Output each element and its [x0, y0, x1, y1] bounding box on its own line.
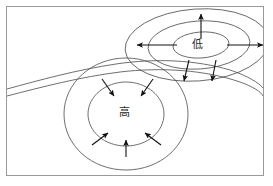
high-pressure-label: 高	[119, 107, 130, 118]
arrow-high-in-topleft	[102, 79, 114, 96]
arrow-high-in-bottomright	[145, 133, 161, 145]
isobar-sweeping-lines	[7, 61, 263, 96]
arrow-high-in-topright	[141, 79, 153, 96]
contour-canvas	[0, 0, 273, 186]
low-pressure-label: 低	[192, 39, 203, 50]
arrow-low-down-right	[212, 60, 216, 81]
pressure-contour-figure: 低 高	[0, 0, 273, 186]
arrow-high-in-bottomleft	[92, 133, 108, 145]
